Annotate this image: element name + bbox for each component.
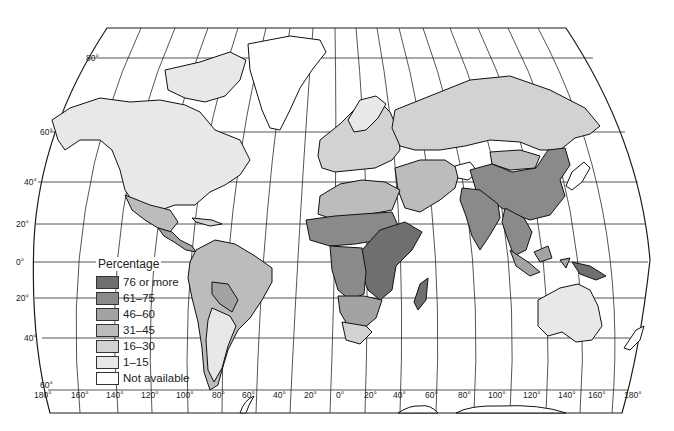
- lat-label-80: 80°: [86, 53, 99, 63]
- region-caribbean: [192, 218, 222, 226]
- legend-swatch: [96, 356, 119, 369]
- region-greenland: [248, 36, 326, 130]
- svg-text:80°: 80°: [212, 390, 225, 400]
- lat-label-60n: 60°: [40, 127, 53, 137]
- svg-text:20°: 20°: [304, 390, 317, 400]
- svg-text:20°: 20°: [364, 390, 377, 400]
- svg-text:40°: 40°: [273, 390, 286, 400]
- svg-text:180°: 180°: [34, 390, 52, 400]
- region-australia: [538, 284, 602, 342]
- region-south-america: [188, 240, 272, 390]
- region-antarctica-fragment: [398, 406, 566, 413]
- svg-text:180°: 180°: [624, 390, 642, 400]
- svg-text:120°: 120°: [523, 390, 541, 400]
- legend-swatch: [96, 276, 119, 289]
- legend-item-1-15: 1–15: [96, 355, 149, 369]
- lat-label-20n: 20°: [16, 219, 29, 229]
- legend-swatch: [96, 292, 119, 305]
- legend-swatch: [96, 340, 119, 353]
- lat-label-40s: 40°: [24, 333, 37, 343]
- lat-label-60s: 60°: [40, 380, 53, 390]
- longitude-labels: 180° 160° 140° 120° 100° 80° 60° 40° 20°…: [34, 390, 642, 400]
- region-middle-east: [395, 160, 460, 212]
- svg-text:80°: 80°: [458, 390, 471, 400]
- legend-item-31-45: 31–45: [96, 323, 155, 337]
- region-arctic-islands: [165, 52, 246, 102]
- legend-swatch: [96, 372, 119, 385]
- legend-item-16-30: 16–30: [96, 339, 155, 353]
- region-russia: [392, 76, 600, 150]
- legend-item-not-available: Not available: [96, 371, 189, 385]
- legend-item-76-or-more: 76 or more: [96, 275, 179, 289]
- legend-item-61-75: 61–75: [96, 291, 155, 305]
- svg-text:140°: 140°: [558, 390, 576, 400]
- svg-text:100°: 100°: [488, 390, 506, 400]
- svg-text:120°: 120°: [141, 390, 159, 400]
- lat-label-20s: 20°: [16, 293, 29, 303]
- svg-text:140°: 140°: [106, 390, 124, 400]
- svg-text:40°: 40°: [393, 390, 406, 400]
- svg-text:60°: 60°: [425, 390, 438, 400]
- region-madagascar: [414, 278, 428, 310]
- legend-swatch: [96, 308, 119, 321]
- region-central-africa: [330, 246, 366, 300]
- svg-text:60°: 60°: [242, 390, 255, 400]
- svg-text:100°: 100°: [176, 390, 194, 400]
- svg-text:160°: 160°: [588, 390, 606, 400]
- legend-swatch: [96, 324, 119, 337]
- svg-text:0°: 0°: [336, 390, 344, 400]
- lat-label-40n: 40°: [24, 177, 37, 187]
- legend-title: Percentage: [96, 257, 161, 271]
- legend-item-46-60: 46–60: [96, 307, 155, 321]
- region-central-america: [158, 228, 196, 252]
- region-north-america: [52, 98, 250, 212]
- region-papua-new-guinea: [572, 262, 606, 280]
- lat-label-0: 0°: [16, 257, 24, 267]
- svg-text:160°: 160°: [71, 390, 89, 400]
